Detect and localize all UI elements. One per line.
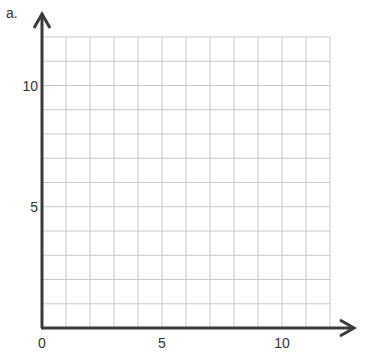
y-tick-label: 10 [22, 78, 38, 94]
x-tick-label: 10 [274, 335, 290, 351]
x-tick-label: 5 [158, 335, 166, 351]
x-tick-label: 0 [38, 335, 46, 351]
y-tick-label: 5 [30, 199, 38, 215]
coordinate-grid: 0510510 [0, 0, 366, 360]
grid-lines [42, 37, 330, 328]
tick-labels: 0510510 [22, 78, 290, 352]
